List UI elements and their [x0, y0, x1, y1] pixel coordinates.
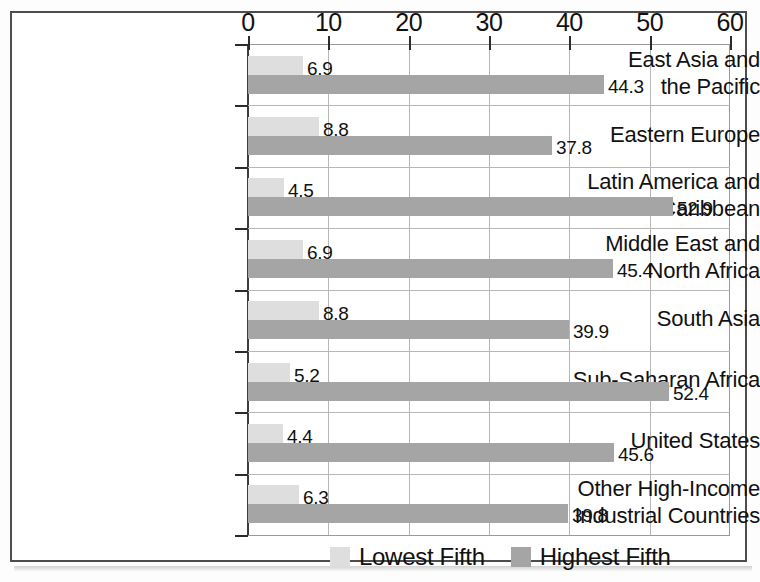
- chart-legend: Lowest Fifth Highest Fifth: [330, 543, 671, 571]
- x-tick-20: [409, 36, 411, 50]
- bar-value-highest-fifth-5: 52.4: [673, 383, 709, 405]
- bar-highest-fifth-5: [248, 382, 669, 401]
- category-tick-1: [235, 105, 248, 107]
- bar-highest-fifth-7: [248, 504, 568, 523]
- bar-lowest-fifth-3: [248, 240, 303, 259]
- legend-item-lowest-fifth[interactable]: Lowest Fifth: [330, 543, 485, 571]
- x-tick-label-60: 60: [717, 8, 744, 37]
- bar-highest-fifth-0: [248, 75, 604, 94]
- category-tick-6: [235, 412, 248, 414]
- x-tick-label-30: 30: [476, 8, 503, 37]
- bar-highest-fifth-1: [248, 136, 552, 155]
- bar-lowest-fifth-5: [248, 363, 290, 382]
- category-tick-4: [235, 290, 248, 292]
- legend-label-lowest-fifth: Lowest Fifth: [359, 543, 485, 571]
- category-tick-8: [235, 535, 248, 537]
- bar-lowest-fifth-2: [248, 178, 284, 197]
- group-separator-1: [248, 105, 730, 106]
- bar-value-highest-fifth-3: 45.4: [617, 260, 653, 282]
- category-tick-5: [235, 351, 248, 353]
- bar-lowest-fifth-7: [248, 485, 299, 504]
- bar-lowest-fifth-6: [248, 424, 283, 443]
- group-separator-5: [248, 351, 730, 352]
- bar-lowest-fifth-0: [248, 56, 303, 75]
- x-tick-label-10: 10: [315, 8, 342, 37]
- axis-bottom-line: [248, 535, 730, 536]
- bar-value-highest-fifth-4: 39.9: [573, 321, 609, 343]
- bar-highest-fifth-4: [248, 320, 569, 339]
- x-tick-label-40: 40: [556, 8, 583, 37]
- legend-swatch-icon-lowest-fifth: [330, 547, 350, 567]
- x-tick-0: [248, 36, 250, 50]
- x-tick-10: [328, 36, 330, 50]
- group-separator-4: [248, 290, 730, 291]
- bar-highest-fifth-2: [248, 197, 673, 216]
- category-tick-7: [235, 474, 248, 476]
- bar-value-highest-fifth-6: 45.6: [618, 444, 654, 466]
- group-separator-3: [248, 228, 730, 229]
- bar-value-highest-fifth-1: 37.8: [556, 137, 592, 159]
- group-separator-6: [248, 412, 730, 413]
- chart-figure: 0102030405060 East Asia and the PacificE…: [0, 0, 760, 582]
- bar-lowest-fifth-4: [248, 301, 319, 320]
- legend-swatch-icon-highest-fifth: [511, 547, 531, 567]
- category-tick-0: [235, 44, 248, 46]
- x-tick-30: [489, 36, 491, 50]
- legend-label-highest-fifth: Highest Fifth: [540, 543, 671, 571]
- category-tick-3: [235, 228, 248, 230]
- x-tick-label-50: 50: [636, 8, 663, 37]
- legend-item-highest-fifth[interactable]: Highest Fifth: [511, 543, 671, 571]
- bar-highest-fifth-3: [248, 259, 613, 278]
- bar-value-highest-fifth-2: 52.9: [677, 198, 713, 220]
- bar-lowest-fifth-1: [248, 117, 319, 136]
- bar-highest-fifth-6: [248, 443, 614, 462]
- x-tick-label-20: 20: [395, 8, 422, 37]
- bar-value-highest-fifth-7: 39.8: [572, 505, 608, 527]
- category-tick-2: [235, 167, 248, 169]
- bar-value-highest-fifth-0: 44.3: [608, 76, 644, 98]
- x-tick-label-0: 0: [241, 8, 254, 37]
